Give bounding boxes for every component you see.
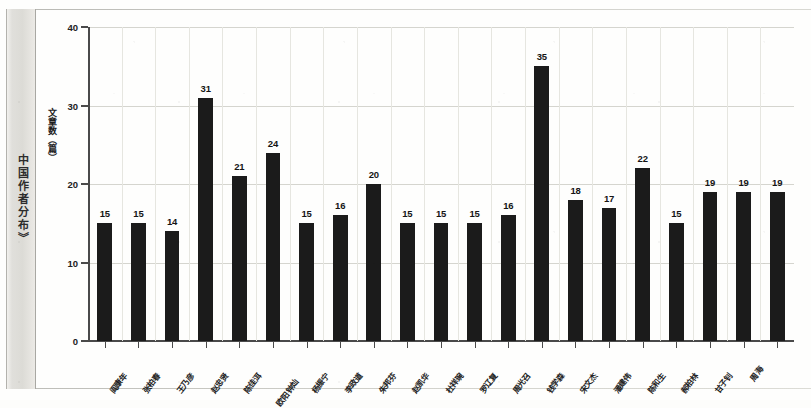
bar[interactable] — [299, 223, 314, 341]
bar[interactable] — [635, 168, 650, 341]
bar[interactable] — [568, 200, 583, 341]
bar-chart: 文章数（篇） 010203040 15151431212415162015151… — [40, 12, 808, 388]
bar[interactable] — [366, 184, 381, 341]
bar-value-label: 19 — [738, 177, 748, 188]
bar[interactable] — [434, 223, 449, 341]
sidebar-title-text: 中国作者分布》 — [14, 154, 30, 245]
bar[interactable] — [97, 223, 112, 341]
bar[interactable] — [333, 215, 348, 341]
x-axis-tick — [374, 342, 375, 348]
y-axis-tick — [81, 262, 88, 264]
bar[interactable] — [131, 223, 146, 341]
y-axis-tick — [81, 26, 88, 28]
vertical-gridline — [122, 27, 123, 341]
bar[interactable] — [534, 66, 549, 341]
bar[interactable] — [467, 223, 482, 341]
x-axis-tick-label: 陈佳洱 — [241, 370, 264, 396]
y-axis-tick-label: 0 — [73, 336, 78, 347]
vertical-gridline — [424, 27, 425, 341]
bar-value-label: 16 — [335, 200, 345, 211]
vertical-gridline — [693, 27, 694, 341]
x-axis-tick-label: 郝柏林 — [678, 370, 701, 396]
x-axis-tick — [475, 342, 476, 348]
y-axis-tick-label: 30 — [67, 100, 78, 111]
bar-value-label: 15 — [470, 208, 480, 219]
bar-value-label: 15 — [301, 208, 311, 219]
vertical-gridline — [391, 27, 392, 341]
bar-value-label: 19 — [705, 177, 715, 188]
x-axis-tick-label: 潘建伟 — [611, 370, 634, 396]
vertical-gridline — [491, 27, 492, 341]
x-axis-tick — [508, 342, 509, 348]
x-axis-tick — [643, 342, 644, 348]
x-axis-tick-label: 周海 — [747, 364, 766, 383]
bar-value-label: 19 — [772, 177, 782, 188]
x-axis-tick — [340, 342, 341, 348]
bar-value-label: 17 — [604, 193, 614, 204]
x-axis-tick — [407, 342, 408, 348]
x-axis-tick — [105, 342, 106, 348]
page-top-rule — [30, 9, 811, 10]
bar-value-label: 15 — [671, 208, 681, 219]
bar-value-label: 15 — [402, 208, 412, 219]
horizontal-gridline — [90, 184, 794, 185]
bar-value-label: 21 — [234, 161, 244, 172]
vertical-gridline — [256, 27, 257, 341]
x-axis-tick-label: 钱学森 — [543, 370, 566, 396]
bar[interactable] — [198, 98, 213, 341]
x-axis-tick — [138, 342, 139, 348]
x-axis-tick — [206, 342, 207, 348]
y-axis-tick — [81, 105, 88, 107]
x-axis-tick — [307, 342, 308, 348]
bar[interactable] — [266, 153, 281, 341]
vertical-gridline — [727, 27, 728, 341]
horizontal-gridline — [90, 106, 794, 107]
x-axis-tick-label: 罗辽复 — [476, 370, 499, 396]
bar-value-label: 18 — [570, 185, 580, 196]
x-axis-tick-label: 甘子钊 — [711, 370, 734, 396]
vertical-gridline — [626, 27, 627, 341]
x-axis-tick — [441, 342, 442, 348]
x-axis-tick-label: 周光召 — [510, 370, 533, 396]
x-axis-tick-label: 宋文杰 — [577, 370, 600, 396]
bar[interactable] — [602, 208, 617, 341]
bar-value-label: 35 — [537, 51, 547, 62]
bar-value-label: 14 — [167, 216, 177, 227]
x-axis-tick — [273, 342, 274, 348]
bar[interactable] — [703, 192, 718, 341]
bar-value-label: 31 — [201, 83, 211, 94]
vertical-gridline — [189, 27, 190, 341]
bar[interactable] — [232, 176, 247, 341]
bar-value-label: 15 — [436, 208, 446, 219]
y-axis-title: 文章数（篇） — [46, 108, 60, 162]
y-axis-tick-label: 40 — [67, 22, 78, 33]
vertical-gridline — [458, 27, 459, 341]
x-axis-tick-label: 朱邦芬 — [375, 370, 398, 396]
vertical-gridline — [155, 27, 156, 341]
sidebar-band: 中国作者分布》 — [6, 9, 36, 389]
vertical-gridline — [357, 27, 358, 341]
x-axis-tick-label: 欧阳钟灿 — [272, 376, 300, 408]
vertical-gridline — [222, 27, 223, 341]
bar[interactable] — [669, 223, 684, 341]
bar[interactable] — [770, 192, 785, 341]
bar[interactable] — [165, 231, 180, 341]
x-axis-tick — [239, 342, 240, 348]
bar-value-label: 24 — [268, 138, 278, 149]
bar[interactable] — [736, 192, 751, 341]
x-axis-tick — [744, 342, 745, 348]
x-axis-tick-label: 张柏春 — [140, 370, 163, 396]
vertical-gridline — [592, 27, 593, 341]
y-axis-tick-label: 10 — [67, 257, 78, 268]
y-axis-title-text: 文章数（篇） — [47, 108, 60, 162]
bar[interactable] — [501, 215, 516, 341]
bar[interactable] — [400, 223, 415, 341]
x-axis-tick-label: 王乃彦 — [173, 370, 196, 396]
horizontal-gridline — [90, 27, 794, 28]
sidebar-vertical-title: 中国作者分布》 — [7, 9, 37, 389]
x-axis-tick — [777, 342, 778, 348]
x-axis-tick-label: 杜祥琬 — [442, 370, 465, 396]
x-axis-tick — [676, 342, 677, 348]
x-axis-tick-label: 李政道 — [342, 370, 365, 396]
